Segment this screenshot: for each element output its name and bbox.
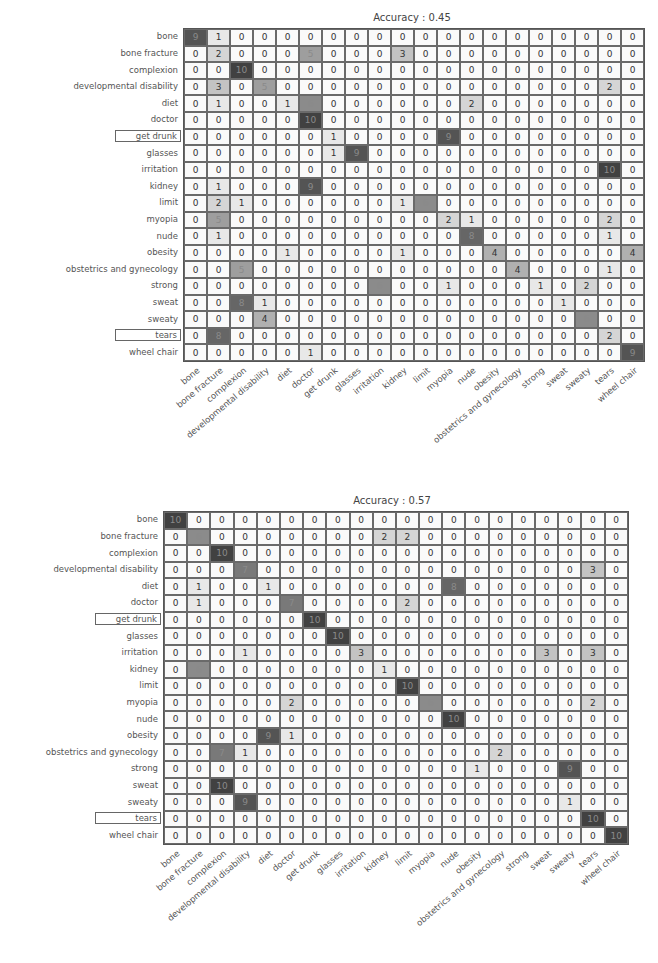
matrix-cell: 0: [581, 711, 604, 728]
matrix-cell: 0: [303, 595, 326, 612]
matrix-cell: 0: [535, 578, 558, 595]
matrix-cell: 0: [414, 261, 437, 278]
matrix-cell: 0: [558, 661, 581, 678]
matrix-cell: 0: [368, 245, 391, 262]
matrix-cell: 0: [345, 212, 368, 229]
matrix-cell: 0: [414, 212, 437, 229]
matrix-cell: 0: [210, 761, 233, 778]
matrix-cell: 0: [184, 145, 207, 162]
matrix-cell: 0: [257, 711, 280, 728]
matrix-cell: 0: [437, 112, 460, 129]
matrix-cell: 9: [257, 728, 280, 745]
row-label: complexion: [109, 548, 158, 558]
matrix-cell: 0: [529, 212, 552, 229]
matrix-cell: 0: [276, 228, 299, 245]
matrix-cell: 0: [373, 794, 396, 811]
matrix-cell: 0: [575, 129, 598, 146]
matrix-cell: 0: [512, 695, 535, 712]
matrix-cell: 0: [552, 278, 575, 295]
matrix-cell: 0: [350, 628, 373, 645]
matrix-cell: 1: [187, 578, 210, 595]
matrix-cell: 0: [350, 761, 373, 778]
matrix-cell: 0: [350, 529, 373, 546]
matrix-cell: 0: [322, 261, 345, 278]
matrix-cell: 0: [605, 512, 628, 529]
matrix-cell: 0: [280, 529, 303, 546]
row-label: tears: [95, 812, 161, 824]
matrix-cell: 0: [506, 278, 529, 295]
matrix-cell: 0: [506, 228, 529, 245]
matrix-cell: 0: [512, 728, 535, 745]
matrix-cell: 0: [322, 62, 345, 79]
matrix-cell: 0: [575, 46, 598, 63]
matrix-cell: 0: [230, 46, 253, 63]
matrix-cell: 0: [187, 794, 210, 811]
row-label: bone fracture: [120, 48, 178, 58]
matrix-cell: 2: [575, 278, 598, 295]
matrix-cell: 0: [187, 728, 210, 745]
matrix-cell: 0: [506, 95, 529, 112]
matrix-cell: 0: [210, 628, 233, 645]
matrix-cell: 0: [230, 79, 253, 96]
matrix-cell: 0: [276, 145, 299, 162]
matrix-cell: 0: [322, 95, 345, 112]
row-label: sweaty: [128, 797, 158, 807]
matrix-cell: 0: [598, 278, 621, 295]
matrix-cell: 0: [184, 62, 207, 79]
matrix-cell: 0: [598, 195, 621, 212]
matrix-cell: 6: [187, 661, 210, 678]
matrix-cell: 0: [253, 129, 276, 146]
matrix-cell: 10: [396, 678, 419, 695]
matrix-cell: 0: [276, 311, 299, 328]
matrix-cell: 0: [529, 95, 552, 112]
matrix-cell: 0: [396, 562, 419, 579]
matrix-cell: 0: [442, 612, 465, 629]
matrix-cell: 0: [326, 744, 349, 761]
matrix-cell: 0: [621, 129, 644, 146]
matrix-cell: 0: [575, 145, 598, 162]
matrix-cell: 0: [350, 744, 373, 761]
matrix-cell: 0: [368, 261, 391, 278]
matrix-cell: 0: [164, 711, 187, 728]
matrix-cell: 0: [465, 711, 488, 728]
matrix-cell: 0: [350, 512, 373, 529]
matrix-cell: 0: [506, 344, 529, 361]
matrix-cell: 7: [210, 744, 233, 761]
matrix-cell: 0: [368, 178, 391, 195]
matrix-cell: 1: [280, 728, 303, 745]
matrix-cell: 0: [207, 261, 230, 278]
matrix-cell: 0: [581, 529, 604, 546]
matrix-cell: 0: [442, 545, 465, 562]
matrix-cell: 0: [465, 661, 488, 678]
matrix-cell: 0: [164, 678, 187, 695]
matrix-cell: 0: [512, 778, 535, 795]
matrix-cell: 0: [276, 178, 299, 195]
matrix-cell: 0: [483, 178, 506, 195]
row-label: sweaty: [148, 314, 178, 324]
matrix-cell: 2: [396, 595, 419, 612]
matrix-cell: 0: [164, 645, 187, 662]
matrix-cell: 0: [581, 512, 604, 529]
matrix-cell: 0: [552, 62, 575, 79]
matrix-cell: 0: [489, 661, 512, 678]
row-label: diet: [142, 581, 158, 591]
matrix-cell: 0: [489, 628, 512, 645]
matrix-cell: 0: [419, 578, 442, 595]
matrix-cell: 0: [489, 512, 512, 529]
matrix-cell: 0: [322, 328, 345, 345]
matrix-cell: 0: [164, 827, 187, 844]
matrix-cell: 0: [442, 678, 465, 695]
matrix-cell: 0: [460, 344, 483, 361]
matrix-cell: 0: [558, 678, 581, 695]
matrix-cell: 0: [506, 178, 529, 195]
matrix-cell: 0: [345, 129, 368, 146]
matrix-cell: 1: [276, 95, 299, 112]
matrix-cell: 0: [210, 512, 233, 529]
matrix-cell: 0: [253, 112, 276, 129]
matrix-cell: 0: [391, 145, 414, 162]
matrix-cell: 0: [391, 129, 414, 146]
matrix-cell: 0: [210, 711, 233, 728]
matrix-cell: 0: [230, 162, 253, 179]
matrix-cell: 0: [164, 595, 187, 612]
matrix-cell: 0: [535, 595, 558, 612]
